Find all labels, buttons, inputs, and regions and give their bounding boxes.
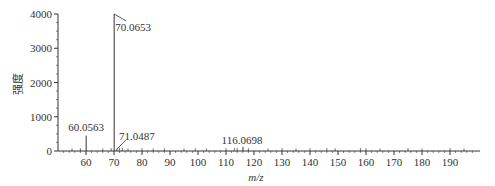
minor-peaks: [72, 148, 464, 151]
x-tick-label: 170: [386, 156, 403, 168]
y-tick-label: 4000: [30, 8, 53, 20]
y-tick-label: 2000: [30, 77, 53, 89]
y-axis-label: 强度: [11, 73, 24, 95]
peak-label: 71.0487: [119, 130, 155, 142]
major-peaks: [86, 14, 243, 151]
x-tick-label: 150: [330, 156, 347, 168]
y-tick-label: 0: [47, 145, 53, 157]
chart-svg: 0100020003000400060708090100110120130140…: [0, 0, 495, 186]
x-tick-label: 110: [218, 156, 235, 168]
y-tick-label: 3000: [30, 42, 53, 54]
peak-label: 116.0698: [222, 134, 263, 146]
peak-label: 60.0563: [68, 121, 104, 133]
x-tick-label: 160: [358, 156, 375, 168]
x-tick-label: 80: [137, 156, 149, 168]
leader-line: [114, 14, 126, 21]
y-tick-label: 1000: [30, 111, 53, 123]
x-tick-label: 140: [302, 156, 319, 168]
peak-label: 70.0653: [115, 21, 151, 33]
x-tick-label: 180: [414, 156, 431, 168]
x-tick-label: 60: [81, 156, 93, 168]
x-tick-label: 70: [109, 156, 121, 168]
peak-labels: 70.065371.048760.0563116.0698: [68, 14, 263, 149]
x-tick-label: 190: [442, 156, 459, 168]
x-tick-label: 100: [190, 156, 207, 168]
mass-spectrum-chart: 0100020003000400060708090100110120130140…: [0, 0, 495, 186]
x-tick-label: 90: [165, 156, 177, 168]
x-axis-label: m/z: [248, 171, 264, 183]
x-tick-label: 120: [246, 156, 263, 168]
x-tick-label: 130: [274, 156, 291, 168]
